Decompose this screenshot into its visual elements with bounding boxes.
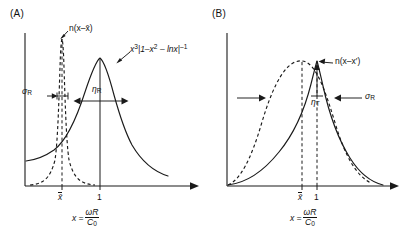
tick-label-xbar-a: x̄ [58,192,62,202]
figure-container: (A) [0,0,411,241]
curve-solid-a [26,58,168,176]
axis-eq-fraction-b: ωR C0 [303,208,318,228]
axis-eq-den-sub-a: 0 [93,220,97,227]
sigma-label-b: σR [365,92,375,102]
panel-b-plot [205,0,411,241]
x-axis-arrow-b [390,182,399,189]
tick-label-xbar-text-b: x̄ [298,192,302,202]
eta-label-b: ηT [311,98,320,108]
curve-solid-b [228,61,383,185]
eta-subscript-a: R [97,87,102,94]
axis-equation-a: x = ωR C0 [72,208,99,228]
eta-arrow-left-a [74,98,81,105]
tick-label-one-a: 1 [97,192,102,202]
formula-tail-a: – lnx| [158,44,181,54]
axis-eq-denominator-b: C0 [304,218,316,228]
x-axis-arrow-a [190,182,199,189]
solid-curve-label-b: n(x–x′) [335,57,360,66]
axis-eq-lhs-a: x = [72,213,84,223]
panel-a: (A) [0,0,206,241]
panel-a-plot [0,0,206,241]
leader-solid-arrow-b [319,59,326,65]
sigma-subscript-b: R [370,94,375,101]
axis-eq-lhs-b: x = [290,213,302,223]
solid-curve-formula-a: x3|1–x2 – lnx|–1 [130,44,187,53]
eta-subscript-b: T [316,100,320,107]
sigma-subscript-a: R [27,89,32,96]
tick-label-xbar-text-a: x̄ [58,192,62,202]
axis-equation-b: x = ωR C0 [290,208,317,228]
curve-dashed-b [228,61,371,185]
sigma-label-a: σR [22,87,32,97]
dashed-curve-label-a: n(x–x̄) [69,24,93,33]
panel-b: (B) [205,0,411,241]
sigma-arrow-left-head-b [259,95,266,102]
eta-arrow-right-a [122,98,129,105]
formula-mid-a: |1–x [138,44,154,54]
tick-label-one-b: 1 [314,192,319,202]
eta-label-a: ηR [92,85,102,95]
axis-eq-den-sub-b: 0 [311,220,315,227]
axis-eq-fraction-a: ωR C0 [85,208,100,228]
tick-label-xbar-b: x̄ [298,192,302,202]
formula-exp3-a: –1 [180,43,187,50]
sigma-arrow-right-head-b [334,95,341,102]
axis-eq-denominator-a: C0 [86,218,98,228]
